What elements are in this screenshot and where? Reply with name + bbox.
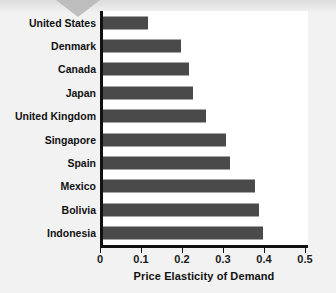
bar: [103, 63, 189, 76]
bar: [103, 157, 230, 170]
category-label: Canada: [0, 63, 96, 75]
y-axis-line: [100, 11, 103, 247]
bar-row: Indonesia: [0, 222, 336, 245]
category-label: United Kingdom: [0, 110, 96, 122]
category-label: Singapore: [0, 134, 96, 146]
bar: [103, 133, 226, 146]
bar: [103, 203, 259, 216]
x-axis-tick-label: 0: [80, 253, 120, 265]
category-label: Mexico: [0, 180, 96, 192]
bar: [103, 227, 263, 240]
bar-row: Spain: [0, 151, 336, 174]
x-axis-tick-label: 0.1: [121, 253, 161, 265]
bar: [103, 110, 206, 123]
x-axis-tick-label: 0.5: [285, 253, 325, 265]
bar: [103, 16, 148, 29]
category-label: Japan: [0, 87, 96, 99]
bar-row: Singapore: [0, 128, 336, 151]
category-label: Spain: [0, 157, 96, 169]
x-axis-line: [100, 245, 308, 248]
bar: [103, 180, 255, 193]
category-label: Denmark: [0, 40, 96, 52]
category-label: Bolivia: [0, 204, 96, 216]
bar-row: Mexico: [0, 175, 336, 198]
category-label: Indonesia: [0, 227, 96, 239]
bar-row: Canada: [0, 58, 336, 81]
x-axis-tick-label: 0.4: [244, 253, 284, 265]
bar-row: United States: [0, 11, 336, 34]
x-axis-tick-label: 0.3: [203, 253, 243, 265]
x-axis-tick-label: 0.2: [162, 253, 202, 265]
bar-chart-figure: United StatesDenmarkCanadaJapanUnited Ki…: [0, 0, 336, 293]
bar-row: Japan: [0, 81, 336, 104]
bar-row: United Kingdom: [0, 105, 336, 128]
bar-row: Denmark: [0, 34, 336, 57]
bar: [103, 86, 193, 99]
bar: [103, 40, 181, 53]
bar-row: Bolivia: [0, 198, 336, 221]
x-axis-title: Price Elasticity of Demand: [100, 270, 308, 282]
category-label: United States: [0, 17, 96, 29]
